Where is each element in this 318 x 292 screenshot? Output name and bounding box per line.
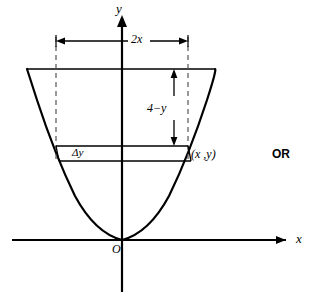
- strip-thickness-label: Δy: [72, 147, 83, 158]
- diagram-svg: [0, 0, 318, 292]
- height-arrow-bottom-head: [171, 137, 178, 146]
- width-arrow-right-head: [179, 38, 188, 45]
- x-axis-label: x: [296, 232, 302, 245]
- height-dimension-arrow: [171, 69, 178, 146]
- x-axis: [12, 236, 286, 244]
- height-arrow-top-head: [171, 69, 178, 78]
- y-axis-arrowhead: [117, 15, 127, 27]
- point-coordinate-label: (x ,y): [191, 148, 216, 160]
- width-arrow-left-head: [56, 38, 65, 45]
- origin-label: O: [112, 243, 121, 255]
- figure-canvas: y x O 2x 4−y Δy (x ,y) OR: [0, 0, 318, 292]
- y-axis-label: y: [116, 2, 122, 15]
- x-axis-arrowhead: [276, 236, 286, 244]
- width-dimension-label: 2x: [131, 33, 142, 45]
- height-dimension-label: 4−y: [147, 102, 166, 114]
- alternative-text: OR: [272, 148, 290, 160]
